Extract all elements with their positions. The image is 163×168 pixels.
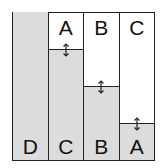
double-arrow-icon	[96, 80, 106, 94]
column-4: C A	[120, 13, 155, 160]
top-label: C	[120, 17, 155, 38]
column-3: B B	[84, 13, 120, 160]
double-arrow-icon	[61, 43, 71, 57]
diagram-frame: D A C B B C A	[12, 12, 155, 161]
top-label: B	[84, 17, 119, 38]
bottom-label: C	[49, 136, 84, 157]
column-1: D	[13, 13, 49, 160]
top-label: A	[49, 17, 84, 38]
bottom-label: B	[84, 136, 119, 157]
bottom-label: A	[120, 136, 155, 157]
column-2: A C	[49, 13, 85, 160]
bottom-label: D	[13, 136, 48, 157]
double-arrow-icon	[132, 117, 142, 131]
